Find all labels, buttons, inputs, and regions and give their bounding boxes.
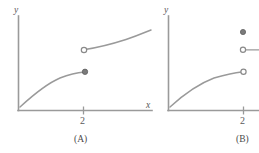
figure-two-piecewise-graphs: y x 2 (A) y 2 (B)	[0, 0, 259, 153]
panel-a-x-axis-label: x	[145, 100, 151, 110]
panel-a-left-branch-curve	[20, 72, 85, 107]
panel-b-tick-label-2: 2	[240, 115, 245, 126]
panel-a-open-endpoint	[81, 47, 86, 52]
panel-b-caption: (B)	[236, 134, 249, 145]
panel-a-caption: (A)	[74, 134, 87, 145]
panel-a: y x 2 (A)	[13, 5, 152, 145]
panel-a-right-branch-curve	[85, 30, 151, 50]
panel-a-y-axis-label: y	[13, 5, 19, 15]
panel-a-tick-label-2: 2	[80, 115, 85, 126]
panel-b-open-endpoint-lower	[241, 69, 246, 74]
panel-a-closed-endpoint	[82, 69, 87, 74]
panel-b-left-branch-curve	[170, 72, 242, 107]
panel-b: y 2 (B)	[163, 5, 259, 145]
panel-b-y-axis-label: y	[163, 5, 169, 15]
panel-b-open-endpoint-upper	[240, 47, 245, 52]
panel-b-isolated-point	[240, 29, 245, 34]
